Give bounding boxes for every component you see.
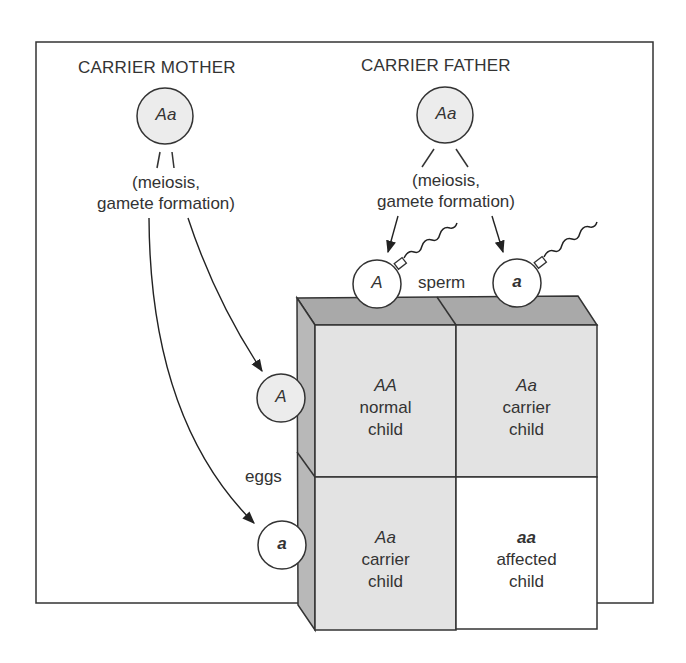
cell-genotype: Aa — [315, 527, 456, 549]
sperm-label: sperm — [418, 273, 465, 293]
cell-phenotype: carrier — [315, 549, 456, 571]
cell-genotype: Aa — [456, 375, 597, 397]
father-to-sperm-a-arrow — [492, 216, 503, 252]
father-process-note: (meiosis, gamete formation) — [360, 170, 532, 212]
eggs-label: eggs — [245, 467, 282, 487]
mother-process-line2: gamete formation) — [80, 193, 252, 214]
father-to-sperm-A-arrow — [388, 216, 398, 252]
cell-subject: child — [456, 419, 597, 441]
mother-genotype: Aa — [146, 105, 186, 125]
sperm-a-tail — [534, 222, 597, 268]
father-split-line-left — [422, 149, 434, 167]
mother-label: CARRIER MOTHER — [78, 58, 236, 78]
cell-subject: child — [456, 571, 597, 593]
egg-A-allele: A — [269, 387, 293, 407]
father-process-line2: gamete formation) — [360, 191, 532, 212]
father-split-line-right — [456, 149, 468, 167]
mother-to-egg-A-arrow — [188, 218, 262, 371]
mother-to-egg-a-arrow — [149, 218, 254, 523]
mother-split-line-right — [172, 152, 174, 168]
mother-process-note: (meiosis, gamete formation) — [80, 172, 252, 214]
cell-subject: child — [315, 571, 456, 593]
cell-genotype: aa — [456, 527, 597, 549]
cell-phenotype: carrier — [456, 397, 597, 419]
egg-a-allele: a — [270, 534, 294, 554]
cell-genotype: AA — [315, 375, 456, 397]
sperm-a-allele: a — [505, 272, 529, 292]
cell-phenotype: normal — [315, 397, 456, 419]
sperm-A-allele: A — [365, 273, 389, 293]
mother-split-line-left — [157, 152, 160, 168]
cell-aa-text: aa affected child — [456, 527, 597, 593]
cell-phenotype: affected — [456, 549, 597, 571]
father-genotype: Aa — [426, 104, 466, 124]
cell-Aa-bottom-text: Aa carrier child — [315, 527, 456, 593]
cell-AA-text: AA normal child — [315, 375, 456, 441]
cell-subject: child — [315, 419, 456, 441]
father-process-line1: (meiosis, — [360, 170, 532, 191]
cell-Aa-top-text: Aa carrier child — [456, 375, 597, 441]
sperm-A-tail — [394, 223, 457, 269]
mother-process-line1: (meiosis, — [80, 172, 252, 193]
father-label: CARRIER FATHER — [361, 56, 511, 76]
